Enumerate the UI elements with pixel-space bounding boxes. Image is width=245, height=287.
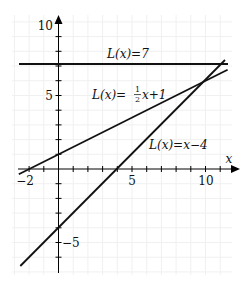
- x-tick-label-5: 5: [128, 174, 136, 188]
- y-tick-label-10: 10: [38, 19, 53, 33]
- x-tick-label-10: 10: [198, 174, 213, 188]
- x-axis-label: x: [226, 152, 233, 166]
- label-eq-half: L(x)= 1 2 x+1: [91, 85, 166, 104]
- line-half-x-plus-1: [19, 70, 228, 174]
- x-axis-arrow-icon: [231, 165, 240, 173]
- y-tick-label-m5: −5: [62, 236, 80, 250]
- y-tick-label-5: 5: [45, 89, 53, 103]
- chart: 10 5 −5 −2 5 10 x L(x)=7 L(x)= 1 2 x+1 L…: [0, 0, 245, 287]
- svg-text:2: 2: [135, 95, 140, 104]
- y-axis-arrow-icon: [55, 15, 63, 24]
- svg-text:1: 1: [135, 85, 140, 94]
- label-eq-x-minus-4: L(x)=x−4: [148, 138, 208, 152]
- svg-text:L(x)=: L(x)=: [91, 88, 126, 102]
- svg-text:x+1: x+1: [142, 88, 166, 102]
- x-tick-label-m2: −2: [16, 174, 34, 188]
- label-eq-constant: L(x)=7: [106, 47, 149, 61]
